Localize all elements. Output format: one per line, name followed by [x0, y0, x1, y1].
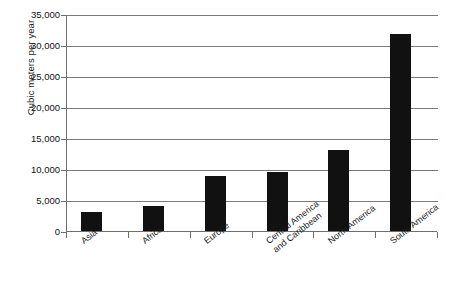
gridline [67, 139, 438, 140]
x-tick-mark [128, 232, 129, 238]
bar [390, 34, 411, 231]
x-tick-mark [437, 232, 438, 238]
gridline [67, 170, 438, 171]
gridline [67, 201, 438, 202]
plot-area [66, 15, 437, 232]
y-tick-label: 35,000 [16, 9, 60, 20]
x-tick-mark [190, 232, 191, 238]
y-tick-label: 5,000 [16, 195, 60, 206]
y-tick-label: 0 [16, 226, 60, 237]
gridline [67, 108, 438, 109]
x-tick-mark [252, 232, 253, 238]
gridline [67, 46, 438, 47]
gridline [67, 77, 438, 78]
gridline [67, 15, 438, 16]
y-tick-label: 10,000 [16, 164, 60, 175]
x-tick-mark [66, 232, 67, 238]
y-tick-label: 15,000 [16, 133, 60, 144]
x-tick-mark [375, 232, 376, 238]
y-tick-label: 20,000 [16, 102, 60, 113]
x-tick-mark [313, 232, 314, 238]
y-tick-label: 30,000 [16, 40, 60, 51]
bar-chart: Cubic meters per year 05,00010,00015,000… [0, 0, 452, 300]
y-tick-label: 25,000 [16, 71, 60, 82]
